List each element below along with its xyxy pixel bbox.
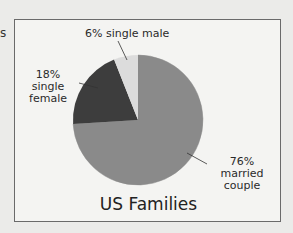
label-single-male: 6% single male	[85, 28, 169, 40]
cropped-text-fragment: s	[0, 26, 6, 40]
label-single-female: 18% single female	[18, 69, 78, 105]
label-line: 18% single	[18, 69, 78, 93]
label-married-couple: 76% married couple	[207, 156, 277, 192]
label-line: couple	[207, 180, 277, 192]
pie-chart	[15, 20, 282, 223]
chart-title: US Families	[15, 194, 282, 214]
label-line: female	[18, 93, 78, 105]
chart-frame: 6% single male 18% single female 76% mar…	[14, 19, 281, 222]
label-line: 76% married	[207, 156, 277, 180]
